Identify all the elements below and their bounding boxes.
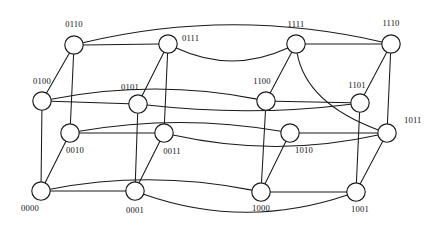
graph-edge	[50, 180, 252, 190]
graph-edge	[387, 53, 390, 124]
node-label-0000: 0000	[21, 203, 39, 213]
graph-node-1001[interactable]	[347, 183, 365, 201]
graph-canvas: 0110011111111110010001011100110110110010…	[0, 0, 441, 237]
graph-edge	[45, 141, 66, 183]
graph-edge	[47, 53, 70, 93]
graph-edge	[144, 194, 348, 212]
graph-node-0011[interactable]	[155, 124, 173, 142]
graph-node-0001[interactable]	[126, 182, 144, 200]
graph-node-1100[interactable]	[257, 92, 275, 110]
graph-node-1011[interactable]	[378, 124, 396, 142]
graph-edge	[51, 101, 129, 103]
graph-edge	[70, 54, 73, 124]
graph-node-1000[interactable]	[252, 183, 270, 201]
node-label-1110: 1110	[382, 18, 399, 28]
node-label-1010: 1010	[295, 145, 313, 155]
graph-edge	[41, 110, 42, 182]
graph-edge	[83, 25, 382, 43]
graph-node-0101[interactable]	[129, 95, 147, 113]
graph-node-0010[interactable]	[61, 124, 79, 142]
graph-node-1101[interactable]	[351, 94, 369, 112]
graph-node-0100[interactable]	[33, 92, 51, 110]
graph-node-0111[interactable]	[159, 35, 177, 53]
node-label-1011: 1011	[404, 115, 421, 125]
graph-edge	[364, 52, 386, 95]
graph-edge	[164, 53, 167, 124]
graph-node-0000[interactable]	[32, 182, 50, 200]
edge-layer	[41, 25, 390, 213]
node-label-1101: 1101	[348, 80, 365, 90]
graph-node-1110[interactable]	[382, 35, 400, 53]
node-label-0100: 0100	[33, 76, 51, 86]
graph-edge	[275, 101, 351, 103]
node-label-0110: 0110	[65, 19, 82, 29]
node-label-0010: 0010	[66, 145, 84, 155]
node-label-0101: 0101	[121, 82, 139, 92]
graph-edge	[83, 44, 159, 45]
graph-edge	[51, 89, 257, 99]
graph-node-0110[interactable]	[65, 36, 83, 54]
graph-edge	[135, 113, 137, 182]
graph-edge	[147, 104, 351, 111]
graph-edge	[356, 112, 359, 183]
node-label-0111: 0111	[182, 33, 199, 43]
hypercube-figure: 0110011111111110010001011100110110110010…	[0, 0, 441, 237]
node-label-1111: 1111	[288, 19, 305, 29]
node-label-1001: 1001	[351, 204, 369, 214]
node-label-1100: 1100	[253, 76, 270, 86]
node-label-0011: 0011	[163, 146, 180, 156]
graph-edge	[173, 135, 378, 146]
graph-edge	[176, 48, 288, 61]
graph-edge	[360, 141, 382, 184]
graph-node-1010[interactable]	[281, 124, 299, 142]
graph-edge	[139, 141, 160, 183]
node-label-0001: 0001	[126, 205, 144, 215]
graph-edge	[265, 141, 286, 183]
graph-edge	[79, 123, 281, 132]
node-label-1000: 1000	[252, 203, 270, 213]
graph-edge	[270, 52, 291, 93]
graph-node-1111[interactable]	[287, 35, 305, 53]
